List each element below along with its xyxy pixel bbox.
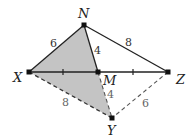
label-Z: Z — [175, 72, 186, 87]
length-NZ: 8 — [125, 36, 132, 49]
geometry-diagram: N X M Z Y 6 4 8 8 4 6 — [0, 0, 194, 140]
point-N — [82, 23, 87, 28]
length-XY: 8 — [62, 96, 69, 109]
label-M: M — [102, 73, 117, 88]
label-X: X — [12, 70, 23, 85]
label-Y: Y — [107, 123, 117, 138]
length-ZY: 6 — [142, 97, 149, 110]
point-Z — [166, 70, 171, 75]
length-XN: 6 — [50, 37, 57, 50]
diagram-svg: N X M Z Y 6 4 8 8 4 6 — [0, 0, 194, 140]
point-X — [27, 70, 32, 75]
segment-ZY — [112, 72, 168, 118]
label-N: N — [77, 6, 90, 21]
point-M — [96, 70, 101, 75]
point-Y — [110, 116, 115, 121]
length-MY: 4 — [107, 88, 114, 101]
length-NM: 4 — [94, 44, 101, 57]
